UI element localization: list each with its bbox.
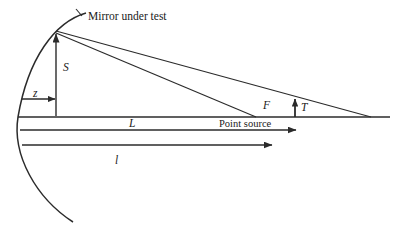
- diagram-canvas: [0, 0, 401, 233]
- depth-z-label: z: [33, 88, 37, 100]
- distance-L-label: L: [129, 118, 135, 130]
- ray-line-lower-icon: [56, 33, 256, 117]
- distance-l-label: l: [115, 155, 118, 167]
- focus-F-label: F: [263, 100, 270, 112]
- sagitta-S-label: S: [63, 62, 69, 74]
- point-source-label: Point source: [219, 119, 271, 130]
- ray-line-upper-icon: [56, 31, 371, 117]
- optical-diagram-figure: Mirror under test S z L l Point source F…: [0, 0, 401, 233]
- mirror-under-test-label: Mirror under test: [88, 11, 167, 23]
- offset-T-label: T: [301, 102, 307, 114]
